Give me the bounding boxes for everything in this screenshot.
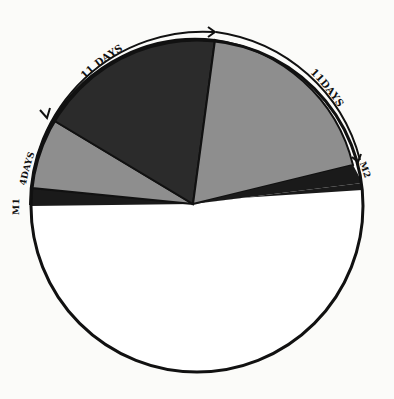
- arrow-icon: [40, 108, 50, 118]
- cycle-diagram: 11 DAYS 11DAYS 4DAYS M1 M2: [0, 0, 394, 399]
- label-m1: M1: [11, 198, 22, 215]
